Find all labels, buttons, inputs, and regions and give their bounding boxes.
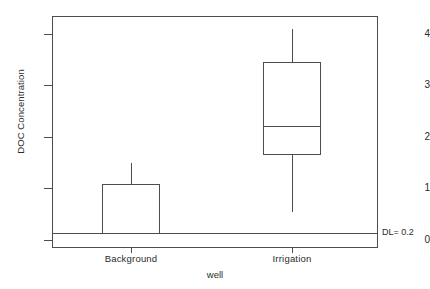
y-tick-label-4: 4 <box>396 29 430 39</box>
boxplot-figure: DOC Concentration 4 3 2 1 0 DL= 0.2 Back… <box>0 0 430 289</box>
detection-limit-line <box>52 233 378 234</box>
background-median-line <box>102 233 160 234</box>
x-tick-label-irrigation: Irrigation <box>232 253 352 264</box>
y-tick-label-3: 3 <box>396 80 430 90</box>
y-axis-title: DOC Concentration <box>15 32 26 192</box>
irrigation-box <box>263 62 321 155</box>
irrigation-lower-whisker <box>292 155 293 212</box>
plot-area <box>52 16 378 248</box>
background-upper-whisker <box>131 163 132 185</box>
x-axis-title: well <box>0 269 430 280</box>
y-tick-mark-2 <box>44 137 52 138</box>
irrigation-upper-whisker <box>292 29 293 62</box>
y-tick-mark-4 <box>44 34 52 35</box>
irrigation-median-line <box>263 126 321 127</box>
y-tick-label-1: 1 <box>396 183 430 193</box>
detection-limit-label: DL= 0.2 <box>382 228 414 237</box>
background-box <box>102 184 160 234</box>
y-tick-mark-3 <box>44 85 52 86</box>
y-tick-mark-0 <box>44 240 52 241</box>
y-tick-mark-1 <box>44 188 52 189</box>
x-tick-label-background: Background <box>71 253 191 264</box>
y-tick-label-2: 2 <box>396 132 430 142</box>
